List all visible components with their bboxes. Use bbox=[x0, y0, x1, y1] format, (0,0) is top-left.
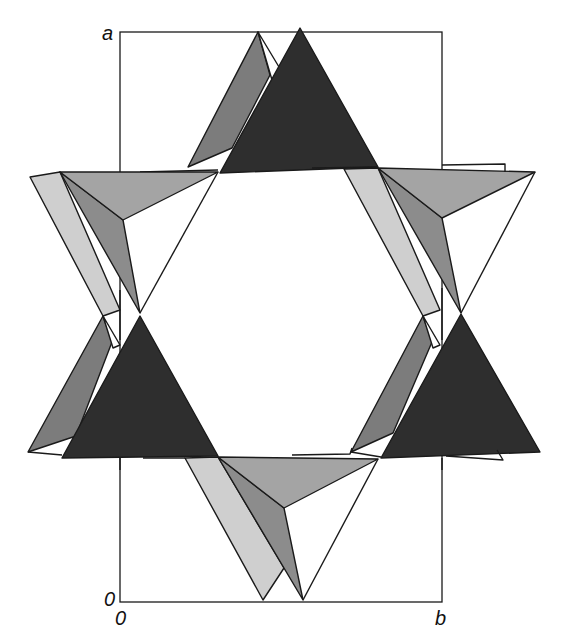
tetrahedra-bottom bbox=[120, 448, 442, 600]
axis-label-b: b bbox=[435, 607, 446, 629]
ledge-line bbox=[292, 448, 352, 455]
origin-label-left: 0 bbox=[104, 588, 115, 610]
ledge-line bbox=[28, 452, 62, 455]
tetrahedra-top bbox=[140, 28, 378, 173]
tetrahedra-upper-right bbox=[344, 164, 535, 340]
ledge-line bbox=[351, 452, 381, 457]
tetrahedra-upper-left bbox=[30, 172, 218, 340]
axis-label-a: a bbox=[102, 22, 113, 44]
tetrahedra-lower-left bbox=[28, 316, 218, 458]
crystal-structure-diagram: a 0 0 b bbox=[0, 0, 561, 642]
tetrahedra-lower-right bbox=[351, 314, 540, 460]
origin-label-bottom: 0 bbox=[115, 607, 126, 629]
